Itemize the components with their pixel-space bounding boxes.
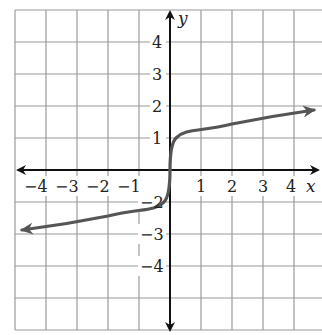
svg-text:2: 2 [152, 97, 162, 116]
svg-text:2: 2 [227, 177, 237, 196]
svg-text:3: 3 [258, 177, 268, 196]
y-axis-label: y [177, 8, 188, 28]
svg-text:−4: −4 [24, 177, 48, 196]
svg-text:4: 4 [152, 33, 162, 52]
svg-text:1: 1 [152, 129, 162, 148]
svg-text:−1: −1 [117, 177, 141, 196]
svg-text:1: 1 [196, 177, 206, 196]
axes [18, 12, 318, 330]
svg-text:−3: −3 [55, 177, 79, 196]
cube-root-curve [170, 110, 314, 170]
svg-text:−4: −4 [140, 257, 164, 276]
y-tick-labels: 4 3 2 1 −2 −3 −4 [140, 33, 164, 276]
svg-text:−2: −2 [86, 177, 110, 196]
svg-text:−2: −2 [140, 193, 164, 212]
chart: y x −4 −3 −2 −1 1 2 3 4 4 3 2 1 −2 −3 −4 [0, 0, 322, 335]
svg-text:4: 4 [286, 177, 296, 196]
svg-text:−3: −3 [140, 225, 164, 244]
svg-text:3: 3 [152, 65, 162, 84]
x-axis-label: x [306, 176, 316, 196]
